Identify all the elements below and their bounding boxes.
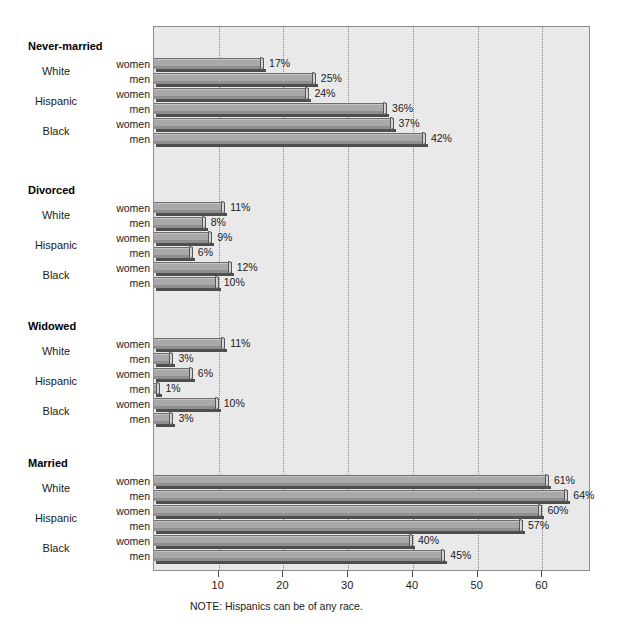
bar-value-label: 17% xyxy=(269,58,290,69)
bar-fill xyxy=(154,118,394,129)
bar-end-cap xyxy=(312,72,316,85)
bar-end-cap xyxy=(305,87,309,100)
bar-shadow xyxy=(156,561,447,564)
sex-label-women: women xyxy=(0,202,150,214)
tick-label-50: 50 xyxy=(471,579,483,591)
sex-label-women: women xyxy=(0,88,150,100)
bar-shadow xyxy=(156,364,175,367)
sex-label-men: men xyxy=(0,383,150,395)
bar-shadow xyxy=(156,424,175,427)
sex-label-men: men xyxy=(0,353,150,365)
bar-widowed-white-women: 11% xyxy=(154,338,225,349)
bar-shadow xyxy=(156,516,544,519)
bar-end-cap xyxy=(519,519,523,532)
bar-shadow xyxy=(156,84,318,87)
bar-married-hispanic-men: 57% xyxy=(154,520,523,531)
bar-value-label: 36% xyxy=(392,103,413,114)
sex-label-men: men xyxy=(0,73,150,85)
bar-end-cap xyxy=(383,102,387,115)
bar-end-cap xyxy=(215,397,219,410)
bar-value-label: 9% xyxy=(217,232,232,243)
bar-fill xyxy=(154,398,219,409)
bar-fill xyxy=(154,88,309,99)
bar-shadow xyxy=(156,114,389,117)
bar-divorced-white-men: 8% xyxy=(154,217,206,228)
bar-widowed-black-men: 3% xyxy=(154,413,173,424)
bar-value-label: 1% xyxy=(165,383,180,394)
bar-fill xyxy=(154,232,212,243)
bar-widowed-hispanic-men: 1% xyxy=(154,383,160,394)
bar-value-label: 45% xyxy=(450,550,471,561)
tick-label-10: 10 xyxy=(212,579,224,591)
bar-value-label: 40% xyxy=(418,535,439,546)
bar-end-cap xyxy=(260,57,264,70)
bar-widowed-hispanic-women: 6% xyxy=(154,368,193,379)
bar-married-white-men: 64% xyxy=(154,490,568,501)
bar-never-married-hispanic-women: 24% xyxy=(154,88,309,99)
bar-value-label: 12% xyxy=(237,262,258,273)
bar-shadow xyxy=(156,99,311,102)
bar-end-cap xyxy=(221,201,225,214)
bar-married-hispanic-women: 60% xyxy=(154,505,542,516)
bar-shadow xyxy=(156,144,428,147)
bar-value-label: 64% xyxy=(573,490,594,501)
sex-label-men: men xyxy=(0,490,150,502)
bar-married-black-women: 40% xyxy=(154,535,413,546)
bar-value-label: 8% xyxy=(211,217,226,228)
sex-label-women: women xyxy=(0,505,150,517)
bar-divorced-hispanic-women: 9% xyxy=(154,232,212,243)
bar-end-cap xyxy=(215,276,219,289)
bar-end-cap xyxy=(189,367,193,380)
bar-fill xyxy=(154,247,193,258)
bar-end-cap xyxy=(564,489,568,502)
bar-value-label: 6% xyxy=(198,368,213,379)
group-title-married: Married xyxy=(0,457,140,469)
bar-value-label: 6% xyxy=(198,247,213,258)
chart-note: NOTE: Hispanics can be of any race. xyxy=(190,600,363,612)
bar-fill xyxy=(154,535,413,546)
bar-fill xyxy=(154,217,206,228)
bar-fill xyxy=(154,520,523,531)
bar-shadow xyxy=(156,228,208,231)
bar-fill xyxy=(154,475,549,486)
tick-mark-30 xyxy=(347,571,348,577)
bar-end-cap xyxy=(390,117,394,130)
bar-end-cap xyxy=(189,246,193,259)
bar-fill xyxy=(154,338,225,349)
bar-fill xyxy=(154,550,445,561)
bar-value-label: 10% xyxy=(224,277,245,288)
group-title-never-married: Never-married xyxy=(0,40,140,52)
bar-value-label: 10% xyxy=(224,398,245,409)
sex-label-women: women xyxy=(0,262,150,274)
bar-fill xyxy=(154,262,232,273)
bar-end-cap xyxy=(221,337,225,350)
sex-label-women: women xyxy=(0,338,150,350)
sex-label-men: men xyxy=(0,217,150,229)
bar-value-label: 25% xyxy=(321,73,342,84)
bar-shadow xyxy=(156,546,415,549)
sex-label-men: men xyxy=(0,277,150,289)
category-labels: Never-marriedWhitewomenmenHispanicwomenm… xyxy=(0,0,153,633)
bar-shadow xyxy=(156,486,551,489)
tick-mark-60 xyxy=(541,571,542,577)
bar-shadow xyxy=(156,69,266,72)
bar-fill xyxy=(154,73,316,84)
bar-value-label: 11% xyxy=(230,202,250,213)
bar-end-cap xyxy=(422,132,426,145)
bar-fill xyxy=(154,505,542,516)
tick-label-30: 30 xyxy=(341,579,353,591)
bar-shadow xyxy=(156,288,221,291)
bars-layer: 17%25%24%36%37%42%11%8%9%6%12%10%11%3%6%… xyxy=(153,26,590,571)
bar-shadow xyxy=(156,273,234,276)
sex-label-women: women xyxy=(0,475,150,487)
bar-value-label: 60% xyxy=(547,505,568,516)
bar-shadow xyxy=(156,501,570,504)
bar-fill xyxy=(154,277,219,288)
bar-end-cap xyxy=(208,231,212,244)
chart-root: 17%25%24%36%37%42%11%8%9%6%12%10%11%3%6%… xyxy=(0,0,623,633)
bar-divorced-black-women: 12% xyxy=(154,262,232,273)
bar-value-label: 11% xyxy=(230,338,250,349)
bar-divorced-black-men: 10% xyxy=(154,277,219,288)
sex-label-men: men xyxy=(0,247,150,259)
sex-label-men: men xyxy=(0,133,150,145)
